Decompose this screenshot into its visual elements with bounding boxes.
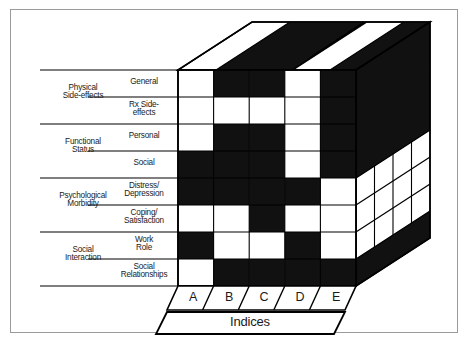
index-label-e: E	[326, 291, 346, 304]
domain-label-physical-side-effects: Physical Side-effects	[40, 84, 126, 101]
cube-front-face	[178, 70, 356, 286]
figure-root: Physical Side-effects Functional Status …	[0, 0, 471, 344]
index-label-c: C	[254, 291, 274, 304]
index-label-a: A	[183, 291, 203, 304]
row-label-work-role: Work Role	[114, 236, 174, 253]
row-label-coping-satisfaction: Coping/ Satisfaction	[114, 209, 174, 226]
index-label-b: B	[219, 291, 239, 304]
row-label-social-relationships: Social Relationships	[110, 263, 178, 280]
row-label-social: Social	[114, 159, 174, 167]
row-label-distress-depression: Distress/ Depression	[114, 182, 174, 199]
row-label-personal: Personal	[114, 132, 174, 140]
index-label-d: D	[290, 291, 310, 304]
row-label-rx-side-effects: Rx Side- effects	[114, 101, 174, 118]
indices-axis-label: Indices	[150, 315, 350, 328]
row-label-general: General	[114, 78, 174, 86]
domain-label-functional-status: Functional Status	[40, 138, 126, 155]
